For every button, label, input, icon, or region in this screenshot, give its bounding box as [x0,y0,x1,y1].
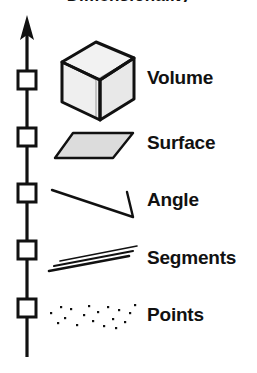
axis-tick-segments [18,241,36,259]
row-label-surface: Surface [147,133,215,152]
axis-tick-angle [18,184,36,202]
axis-tick-points [18,299,36,317]
axis-tick-volume [18,71,36,89]
cube-icon [62,42,134,120]
line-segments-icon [49,246,137,271]
figure-canvas [0,0,257,373]
angle-icon [52,190,133,217]
row-label-segments: Segments [147,248,236,267]
axis-tick-surface [18,128,36,146]
parallelogram-icon [55,133,133,158]
row-label-points: Points [147,305,204,324]
point-cloud-icon [50,304,136,329]
row-label-volume: Volume [147,68,213,87]
row-label-angle: Angle [147,190,199,209]
figure-title: Dimensionality [0,0,257,2]
dimensionality-hierarchy-figure: Dimensionality [0,0,257,373]
